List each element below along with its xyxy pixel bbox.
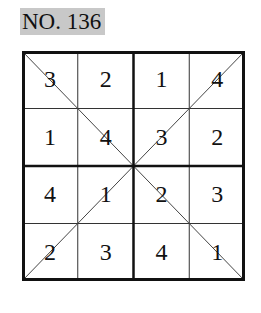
grid-cell: 2	[22, 224, 78, 282]
grid-cell: 1	[78, 166, 134, 224]
grid-cell: 3	[189, 166, 245, 224]
grid-cell: 1	[189, 224, 245, 282]
grid-cell: 3	[22, 51, 78, 109]
diagonal-sudoku-grid: 3214143241232341	[22, 51, 245, 281]
grid-cell: 2	[78, 51, 134, 109]
grid-cell: 1	[22, 109, 78, 167]
grid-cell: 4	[78, 109, 134, 167]
grid-cell: 2	[134, 166, 190, 224]
grid-cell: 3	[134, 109, 190, 167]
grid-cell: 4	[22, 166, 78, 224]
grid-cell: 3	[78, 224, 134, 282]
puzzle-number-label: NO. 136	[20, 8, 105, 35]
grid-cell: 4	[134, 224, 190, 282]
grid-cell: 4	[189, 51, 245, 109]
grid-cell: 2	[189, 109, 245, 167]
grid-cell: 1	[134, 51, 190, 109]
